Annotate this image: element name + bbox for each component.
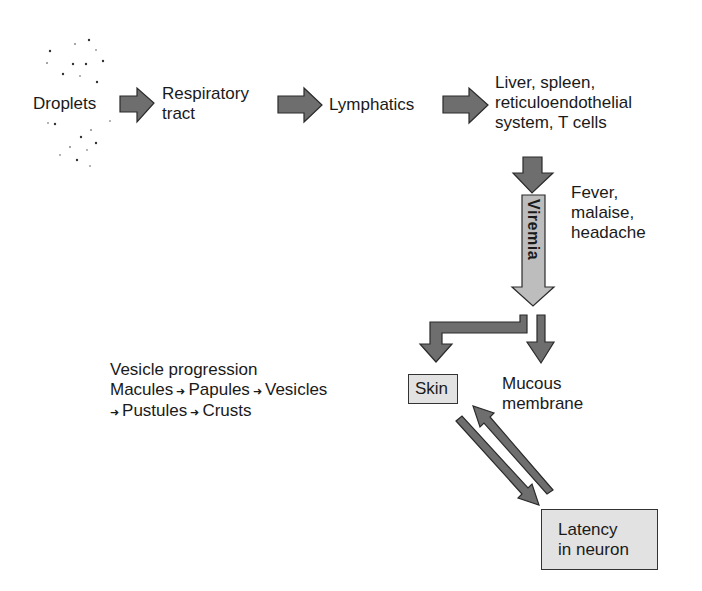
- arrow-viremia-to-skin: [420, 315, 527, 362]
- stage-vesicles: Vesicles: [265, 380, 327, 399]
- node-organs-line2: reticuloendothelial: [495, 93, 632, 113]
- vesicle-progression-heading: Vesicle progression: [110, 360, 327, 380]
- vesicle-progression-line2: ➜ Pustules ➜ Crusts: [110, 401, 327, 422]
- stage-macules: Macules: [110, 380, 173, 399]
- mucous-line2: membrane: [502, 394, 583, 414]
- stage-crusts: Crusts: [202, 401, 251, 420]
- node-respiratory-tract: Respiratory tract: [162, 84, 249, 124]
- node-skin: Skin: [408, 374, 458, 404]
- mucous-line1: Mucous: [502, 374, 583, 394]
- arrow-organs-down: [513, 157, 553, 193]
- stage-papules: Papules: [188, 380, 249, 399]
- arrow-respiratory-to-lymphatics: [278, 88, 322, 122]
- node-mucous-membrane: Mucous membrane: [502, 374, 583, 414]
- vesicle-progression: Vesicle progression Macules ➜ Papules ➜ …: [110, 360, 327, 422]
- symptom-headache: headache: [571, 223, 646, 243]
- small-arrow-icon: ➜: [110, 406, 122, 418]
- vesicle-progression-line1: Macules ➜ Papules ➜ Vesicles: [110, 380, 327, 401]
- latency-line2: in neuron: [558, 540, 657, 560]
- node-lymphatics: Lymphatics: [329, 95, 414, 115]
- node-symptoms: Fever, malaise, headache: [571, 183, 646, 243]
- node-latency-in-neuron: Latency in neuron: [541, 509, 658, 570]
- symptom-malaise: malaise,: [571, 203, 646, 223]
- node-respiratory-line1: Respiratory: [162, 84, 249, 104]
- viremia-label: Viremia: [524, 199, 542, 260]
- latency-line1: Latency: [558, 520, 657, 540]
- symptom-fever: Fever,: [571, 183, 646, 203]
- small-arrow-icon: ➜: [173, 385, 188, 397]
- node-organs-line3: system, T cells: [495, 113, 632, 133]
- stage-pustules: Pustules: [122, 401, 187, 420]
- arrow-lymphatics-to-organs: [443, 88, 488, 123]
- arrow-droplets-to-respiratory: [120, 88, 154, 122]
- node-organs-line1: Liver, spleen,: [495, 73, 632, 93]
- arrow-viremia-to-mucous: [527, 315, 554, 363]
- node-droplets: Droplets: [33, 94, 96, 114]
- small-arrow-icon: ➜: [187, 406, 202, 418]
- node-respiratory-line2: tract: [162, 104, 249, 124]
- node-organs: Liver, spleen, reticuloendothelial syste…: [495, 73, 632, 133]
- small-arrow-icon: ➜: [250, 385, 265, 397]
- skin-label: Skin: [415, 379, 448, 398]
